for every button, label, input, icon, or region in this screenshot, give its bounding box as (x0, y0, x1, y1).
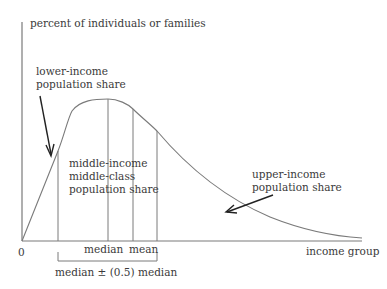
lower-income-label-line1: lower-income (36, 65, 108, 77)
middle-income-label-line1: middle-income (69, 157, 147, 169)
x-axis-label: income group (306, 245, 380, 257)
upper-income-arrow (227, 195, 273, 212)
origin-label: 0 (18, 246, 25, 258)
median-label: median (84, 243, 124, 255)
median-range-label: median ± (0.5) median (55, 266, 177, 278)
upper-income-label-line1: upper-income (252, 168, 325, 180)
middle-income-label-line3: population share (69, 183, 159, 195)
mean-label: mean (129, 243, 158, 255)
lower-income-label-line2: population share (36, 78, 126, 90)
y-axis-label: percent of individuals or families (30, 17, 206, 29)
middle-income-label-line2: middle-class (69, 170, 135, 182)
income-distribution-diagram: percent of individuals or families lower… (0, 0, 387, 289)
upper-income-label-line2: population share (252, 181, 342, 193)
